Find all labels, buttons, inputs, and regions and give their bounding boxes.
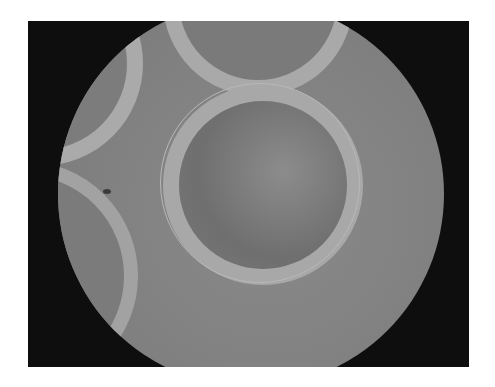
microscope-field-of-view [58,21,444,367]
well-bottom-left [58,161,138,367]
well-main-edge [160,83,360,283]
debris-speck [103,189,111,194]
well-left [58,21,143,166]
micrograph-frame [28,21,469,367]
